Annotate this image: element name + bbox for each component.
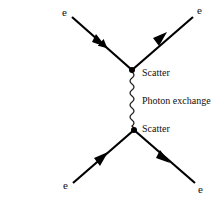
label-scatter-top: Scatter — [142, 67, 170, 78]
electron-line-bottom-right — [134, 130, 195, 183]
label-photon-exchange: Photon exchange — [142, 95, 211, 106]
label-e-bottom-left: e — [63, 179, 68, 191]
vertex-top — [129, 67, 135, 73]
vertex-bottom — [131, 127, 137, 133]
electron-line-top-left — [72, 17, 132, 70]
arrow-icon — [153, 32, 167, 46]
label-scatter-bottom: Scatter — [142, 123, 170, 134]
electron-line-top-right — [132, 17, 193, 70]
label-e-top-left: e — [62, 6, 67, 18]
feynman-diagram: e e e e Scatter Photon exchange Scatter — [0, 0, 222, 213]
label-e-top-right: e — [197, 4, 202, 16]
electron-line-bottom-left — [73, 130, 134, 183]
label-e-bottom-right: e — [198, 183, 203, 195]
photon-propagator — [130, 72, 134, 128]
